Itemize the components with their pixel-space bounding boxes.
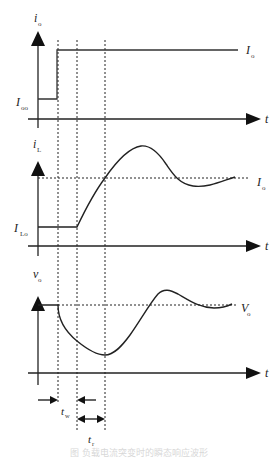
panel-vo: v o V o t — [28, 267, 269, 385]
y-axis-label: i — [34, 11, 37, 25]
arrow-right-icon — [50, 396, 58, 404]
figure-caption: 图 负载电流突变时的瞬态响应波形 — [70, 447, 208, 458]
level-label-ilo: I — [13, 221, 19, 235]
svg-text:r: r — [92, 440, 95, 447]
svg-text:o: o — [262, 184, 266, 192]
t-axis-label: t — [265, 112, 269, 126]
il-waveform — [38, 146, 235, 227]
svg-text:Lo: Lo — [20, 230, 28, 238]
svg-text:o: o — [251, 52, 255, 60]
svg-text:o: o — [38, 20, 42, 28]
interval-tr: t r — [77, 415, 105, 447]
y-axis-arrow-icon — [31, 296, 45, 311]
vo-waveform — [38, 290, 232, 355]
y-axis-arrow-icon — [31, 161, 45, 176]
y-axis-arrow-icon — [31, 31, 45, 46]
io-waveform — [38, 50, 238, 99]
svg-text:o: o — [247, 310, 251, 318]
t-axis-arrow-icon — [246, 113, 261, 125]
double-arrow-left-icon — [77, 415, 85, 423]
y-axis-label: i — [33, 137, 36, 151]
t-axis-label: t — [265, 239, 269, 253]
panel-il: i L I Lo I o t — [13, 137, 269, 256]
t-axis-label: t — [265, 366, 269, 380]
svg-text:oo: oo — [21, 104, 29, 112]
timing-diagram: i o I oo I o t i L I Lo I o t v o V — [0, 0, 279, 459]
svg-text:o: o — [38, 276, 42, 284]
t-axis-arrow-icon — [246, 240, 261, 252]
svg-text:L: L — [37, 146, 41, 154]
t-axis-arrow-icon — [246, 367, 261, 379]
arrow-left-icon — [77, 396, 85, 404]
panel-io: i o I oo I o t — [15, 11, 269, 128]
double-arrow-right-icon — [97, 415, 105, 423]
interval-tw: t w — [38, 396, 96, 419]
svg-text:w: w — [65, 412, 70, 419]
guide-lines — [58, 40, 105, 430]
